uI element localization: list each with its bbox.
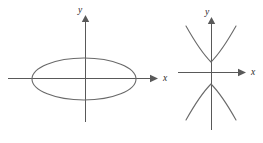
hyperbola-x-axis-label: x [250, 67, 256, 77]
figure-canvas: y x y x [0, 0, 263, 143]
hyperbola-axis-labels: y x [0, 0, 263, 143]
hyperbola-y-axis-label: y [204, 7, 210, 17]
